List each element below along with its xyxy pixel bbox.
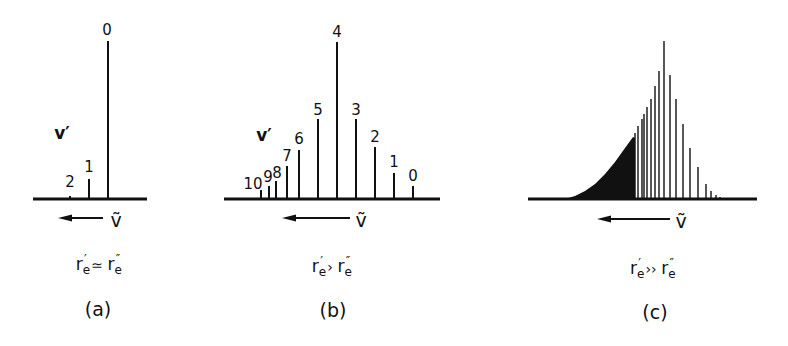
double-prime-mark: ″ <box>670 256 674 270</box>
relation-operator: › <box>323 259 338 275</box>
r-symbol: r <box>312 256 319 276</box>
r-symbol: r <box>107 254 114 274</box>
relation-label-a: re′ ≃ re″ <box>76 253 121 276</box>
spectra-drawing <box>0 0 788 346</box>
arrow-left-icon <box>597 216 611 223</box>
wavenumber-label-a: ṽ <box>110 211 121 230</box>
franck-condon-figure: v′ ṽ re′ ≃ re″ (a) 012 v′ ṽ re′ › re″ (b… <box>0 0 788 346</box>
arrow-left-icon <box>58 215 72 222</box>
vibrational-level-label: 5 <box>313 103 323 118</box>
relation-operator: ≃ <box>87 257 108 273</box>
vibrational-level-label: 0 <box>408 169 418 184</box>
vibrational-level-label: 0 <box>102 23 112 38</box>
vibrational-level-label: 1 <box>84 160 94 175</box>
vibrational-level-label: 3 <box>351 103 361 118</box>
panel-caption-b: (b) <box>320 301 347 320</box>
vibrational-level-label: 7 <box>282 149 292 164</box>
unresolved-continuum <box>565 137 635 199</box>
vibrational-level-label: 4 <box>332 25 342 40</box>
arrow-left-icon <box>282 215 296 222</box>
vibrational-level-label: 1 <box>389 155 399 170</box>
double-prime-mark: ″ <box>116 252 120 266</box>
vibrational-level-label: 2 <box>370 130 380 145</box>
relation-label-b: re′ › re″ <box>312 255 351 278</box>
wavenumber-label-b: ṽ <box>355 211 366 230</box>
r-symbol: r <box>76 254 83 274</box>
relation-label-c: re′ ›› re″ <box>630 257 674 280</box>
vprime-label-b: v′ <box>256 127 272 144</box>
vibrational-level-label: 6 <box>294 132 304 147</box>
vibrational-level-label: 10 <box>243 177 262 192</box>
vprime-label-a: v′ <box>54 125 70 142</box>
r-symbol: r <box>337 256 344 276</box>
relation-operator: ›› <box>641 261 661 277</box>
panel-caption-a: (a) <box>85 300 111 319</box>
double-prime-mark: ″ <box>346 254 350 268</box>
panel-caption-c: (c) <box>642 303 667 322</box>
vibrational-level-label: 2 <box>65 175 75 190</box>
r-symbol: r <box>630 258 637 278</box>
vibrational-level-label: 8 <box>272 166 282 181</box>
wavenumber-label-c: ṽ <box>675 212 686 231</box>
